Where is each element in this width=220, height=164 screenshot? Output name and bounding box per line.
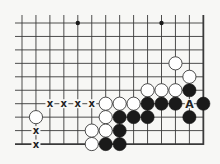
white-stone (169, 84, 182, 97)
black-stone (127, 111, 140, 124)
black-stone (155, 97, 168, 110)
white-stone (155, 84, 168, 97)
white-stone (127, 97, 140, 110)
black-stone (183, 111, 196, 124)
black-stone (113, 137, 126, 150)
black-stone (99, 137, 112, 150)
black-stone (183, 84, 196, 97)
label-x: x (33, 139, 40, 150)
label-x: x (61, 98, 68, 109)
white-stone (183, 70, 196, 83)
label-x: x (33, 125, 40, 136)
white-stone (99, 111, 112, 124)
white-stone (85, 137, 98, 150)
star-point (76, 21, 80, 25)
white-stone (85, 124, 98, 137)
go-board: xxxxxxA (0, 0, 220, 164)
label-a: A (185, 98, 194, 111)
label-x: x (89, 98, 96, 109)
white-stone (29, 111, 42, 124)
label-x: x (75, 98, 82, 109)
black-stone (113, 111, 126, 124)
label-x: x (47, 98, 54, 109)
black-stone (141, 111, 154, 124)
white-stone (169, 57, 182, 70)
black-stone (113, 124, 126, 137)
white-stone (113, 97, 126, 110)
white-stone (99, 97, 112, 110)
black-stone (141, 97, 154, 110)
star-point (159, 21, 163, 25)
black-stone (169, 97, 182, 110)
white-stone (141, 84, 154, 97)
black-stone (197, 97, 210, 110)
white-stone (99, 124, 112, 137)
